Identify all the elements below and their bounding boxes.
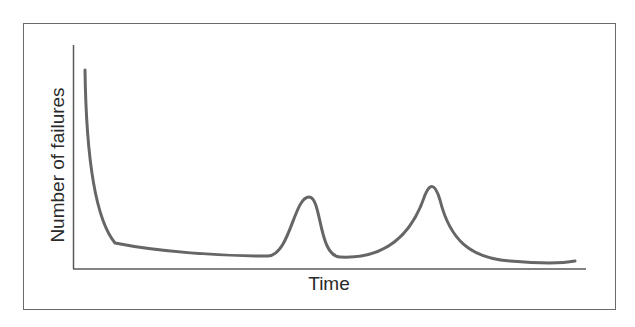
x-axis-label: Time — [308, 273, 350, 295]
y-axis-label: Number of failures — [47, 87, 69, 242]
failure-curve — [85, 70, 575, 263]
